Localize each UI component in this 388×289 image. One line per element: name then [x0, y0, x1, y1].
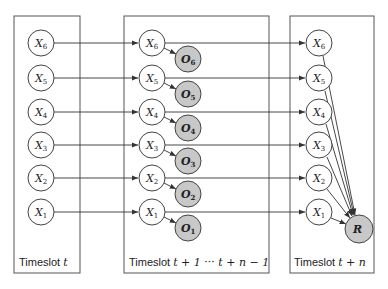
observation-node: O4: [175, 115, 201, 141]
edges-t-to-mid: [54, 43, 138, 212]
timeslot-label-t-plus-n: Timeslott + n: [294, 256, 366, 269]
observation-node: O6: [175, 46, 201, 72]
state-node: X4: [306, 99, 332, 125]
observation-node: O3: [175, 148, 201, 174]
svg-text:R: R: [352, 223, 362, 236]
state-node: X3: [28, 132, 54, 158]
state-node: X1: [139, 199, 165, 225]
state-node: X6: [139, 30, 165, 56]
observation-node: O5: [175, 81, 201, 107]
state-node: X6: [306, 30, 332, 56]
state-node: X3: [306, 132, 332, 158]
observation-node: O2: [175, 181, 201, 207]
state-node: X3: [139, 132, 165, 158]
state-node: X1: [28, 199, 54, 225]
state-node: X2: [306, 165, 332, 191]
reward-node: R: [345, 215, 373, 243]
timeslot-label-middle: Timeslott + 1 ··· t + n − 1: [129, 256, 269, 269]
state-node: X2: [28, 165, 54, 191]
observation-node: O1: [175, 215, 201, 241]
state-node: X2: [139, 165, 165, 191]
state-node: X5: [139, 65, 165, 91]
state-node: X1: [306, 199, 332, 225]
state-node: X4: [139, 99, 165, 125]
state-node: X6: [28, 30, 54, 56]
state-nodes-t: X6 X5 X4 X3 X2 X1: [28, 30, 54, 225]
graphical-model-diagram: X6 X5 X4 X3 X2 X1 X6 X5 X4 X3 X2 X1 O6 O…: [0, 0, 388, 289]
state-nodes-tn: X6 X5 X4 X3 X2 X1: [306, 30, 332, 225]
edges-state-to-observation: [164, 48, 176, 223]
state-node: X5: [28, 65, 54, 91]
state-nodes-mid: X6 X5 X4 X3 X2 X1: [139, 30, 165, 225]
state-node: X5: [306, 65, 332, 91]
state-node: X4: [28, 99, 54, 125]
timeslot-label-t: Timeslott: [19, 256, 68, 269]
